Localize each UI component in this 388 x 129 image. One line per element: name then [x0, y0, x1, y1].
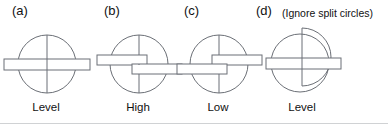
split-half-circle-outline: [302, 28, 331, 86]
panel-c: (c) Low: [172, 0, 260, 129]
panel-d: (d) (Ignore split circles) Level: [252, 0, 388, 129]
panel-d-diagram: [258, 26, 358, 98]
panel-a: (a) Level: [0, 0, 92, 129]
panel-b-diagram: [92, 30, 184, 98]
panel-b-letter: (b): [104, 3, 120, 19]
left-bar-low: [177, 64, 227, 74]
panel-d-note: (Ignore split circles): [282, 6, 373, 20]
panel-c-diagram: [172, 30, 264, 98]
bottom-divider: [0, 123, 388, 124]
figure-stage: (a) Level (b) High (c) Low: [0, 0, 388, 129]
panel-c-letter: (c): [184, 3, 199, 19]
panel-b: (b) High: [92, 0, 180, 129]
panel-d-caption: Level: [252, 100, 352, 114]
panel-c-caption: Low: [172, 100, 264, 114]
panel-a-letter: (a): [12, 3, 28, 19]
panel-a-caption: Level: [0, 100, 92, 114]
panel-a-diagram: [0, 30, 92, 98]
panel-d-letter: (d): [256, 3, 272, 19]
panel-b-caption: High: [92, 100, 184, 114]
level-bar: [266, 58, 341, 69]
